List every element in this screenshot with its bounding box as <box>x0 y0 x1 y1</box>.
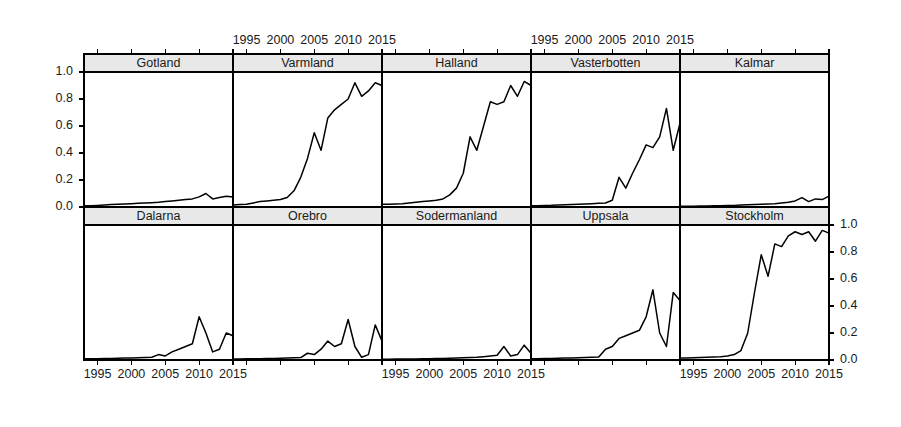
x-tick-label-top: 2015 <box>666 33 694 47</box>
x-tick-label-bottom: 2005 <box>151 367 179 381</box>
strip-label-gotland: Gotland <box>137 56 181 70</box>
panels-group: GotlandVarmlandHallandVasterbottenKalmar… <box>84 54 829 360</box>
strip-label-orebro: Orebro <box>288 209 327 223</box>
trellis-figure: GotlandVarmlandHallandVasterbottenKalmar… <box>0 0 901 427</box>
x-tick-label-bottom: 2010 <box>781 367 809 381</box>
lattice-plot-svg: GotlandVarmlandHallandVasterbottenKalmar… <box>0 0 901 427</box>
x-tick-label-bottom: 2005 <box>747 367 775 381</box>
x-tick-label-top: 2000 <box>267 33 295 47</box>
x-tick-label-bottom: 2010 <box>483 367 511 381</box>
x-tick-label-top: 2010 <box>632 33 660 47</box>
x-tick-label-top: 1995 <box>233 33 261 47</box>
y-tick-label-left: 0.8 <box>56 91 73 105</box>
strip-label-sodermanland: Sodermanland <box>416 209 497 223</box>
y-tick-label-left: 0.2 <box>56 172 73 186</box>
strip-label-kalmar: Kalmar <box>735 56 775 70</box>
panel-vasterbotten[interactable]: Vasterbotten <box>531 54 680 207</box>
x-tick-label-bottom: 2000 <box>714 367 742 381</box>
x-tick-label-bottom: 2005 <box>449 367 477 381</box>
x-tick-label-bottom: 2015 <box>815 367 843 381</box>
panel-frame-kalmar <box>680 72 829 207</box>
x-tick-label-bottom: 2015 <box>517 367 545 381</box>
strip-label-halland: Halland <box>435 56 477 70</box>
y-tick-label-right: 0.2 <box>840 325 857 339</box>
y-tick-label-left: 0.4 <box>56 145 73 159</box>
panel-kalmar[interactable]: Kalmar <box>680 54 829 207</box>
x-tick-label-top: 1995 <box>531 33 559 47</box>
y-tick-label-left: 0.0 <box>56 199 73 213</box>
x-tick-label-top: 2015 <box>368 33 396 47</box>
panel-varmland[interactable]: Varmland <box>233 54 382 207</box>
panel-frame-gotland <box>84 72 233 207</box>
x-tick-label-bottom: 2010 <box>185 367 213 381</box>
strip-label-vasterbotten: Vasterbotten <box>571 56 641 70</box>
x-tick-label-bottom: 1995 <box>680 367 708 381</box>
strip-label-uppsala: Uppsala <box>583 209 629 223</box>
panel-frame-orebro <box>233 225 382 360</box>
strip-label-varmland: Varmland <box>281 56 334 70</box>
panel-dalarna[interactable]: Dalarna <box>84 207 233 360</box>
y-tick-label-left: 0.6 <box>56 118 73 132</box>
panel-frame-uppsala <box>531 225 680 360</box>
strip-label-dalarna: Dalarna <box>137 209 181 223</box>
y-tick-label-right: 0.8 <box>840 244 857 258</box>
x-tick-label-top: 2005 <box>300 33 328 47</box>
panel-gotland[interactable]: Gotland <box>84 54 233 207</box>
x-tick-label-bottom: 1995 <box>382 367 410 381</box>
panel-uppsala[interactable]: Uppsala <box>531 207 680 360</box>
x-tick-label-bottom: 2000 <box>416 367 444 381</box>
y-tick-label-right: 0.4 <box>840 298 857 312</box>
y-tick-label-right: 1.0 <box>840 217 857 231</box>
y-tick-label-right: 0.0 <box>840 352 857 366</box>
panel-stockholm[interactable]: Stockholm <box>680 207 829 360</box>
x-tick-label-bottom: 2015 <box>219 367 247 381</box>
panel-orebro[interactable]: Orebro <box>233 207 382 360</box>
panel-halland[interactable]: Halland <box>382 54 531 207</box>
y-tick-label-right: 0.6 <box>840 271 857 285</box>
panel-sodermanland[interactable]: Sodermanland <box>382 207 531 360</box>
strip-label-stockholm: Stockholm <box>725 209 783 223</box>
y-tick-label-left: 1.0 <box>56 64 73 78</box>
panel-frame-dalarna <box>84 225 233 360</box>
x-tick-label-top: 2010 <box>334 33 362 47</box>
x-tick-label-bottom: 2000 <box>118 367 146 381</box>
x-tick-label-bottom: 1995 <box>84 367 112 381</box>
x-tick-label-top: 2000 <box>565 33 593 47</box>
x-tick-label-top: 2005 <box>598 33 626 47</box>
panel-frame-sodermanland <box>382 225 531 360</box>
